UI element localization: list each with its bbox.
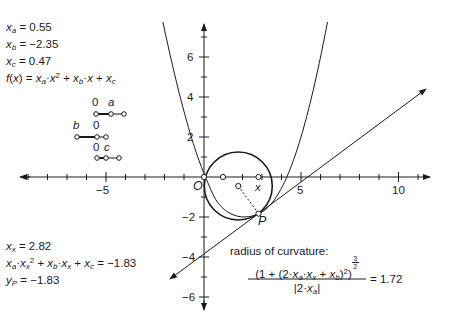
slider-b-name-label: b <box>73 119 79 132</box>
x-point[interactable] <box>256 174 261 179</box>
param-xb: xb = −2.35 <box>6 38 58 51</box>
slider-c[interactable] <box>95 156 122 161</box>
y-tick-label-2: 2 <box>187 131 193 144</box>
y-tick-label-neg6: −6 <box>182 291 195 304</box>
result-yp: yP = −1.83 <box>6 274 59 287</box>
origin-label: O <box>193 180 203 193</box>
slider-c-zero-label: 0 <box>93 141 99 154</box>
curvature-label: radius of curvature: <box>230 245 328 258</box>
y-tick-label-neg2: −2 <box>182 211 195 224</box>
param-xa: xa = 0.55 <box>6 21 52 34</box>
x-tick-label-neg5: −5 <box>96 184 109 197</box>
curvature-center-point[interactable] <box>236 183 241 188</box>
function-definition: f(x) = xa·x2 + xb·x + xc <box>6 72 116 85</box>
x-point-label: x <box>255 181 261 194</box>
slider-a-name-label: a <box>108 96 114 109</box>
slider-a[interactable] <box>94 112 127 117</box>
p-point-label: P <box>258 215 266 228</box>
slider-c-name-label: c <box>104 141 110 154</box>
unit-point[interactable] <box>220 174 225 179</box>
curvature-numerator: (1 + (2·xa·xx + xb)2)32 <box>248 264 366 280</box>
x-tick-label-10: 10 <box>392 184 405 197</box>
y-tick-label-6: 6 <box>187 51 193 64</box>
slider-b-zero-label: 0 <box>93 119 99 132</box>
result-xx: xx = 2.82 <box>6 240 51 253</box>
param-xc: xc = 0.47 <box>6 55 51 68</box>
result-fxx: xa·xx2 + xb·xx + xc = −1.83 <box>6 257 136 270</box>
curvature-value: = 1.72 <box>370 273 402 286</box>
curvature-denominator: |2·xa| <box>248 282 366 294</box>
slider-a-zero-label: 0 <box>92 96 98 109</box>
x-tick-label-5: 5 <box>297 184 303 197</box>
slider-b[interactable] <box>75 135 109 140</box>
y-tick-label-neg4: −4 <box>182 251 195 264</box>
y-tick-label-4: 4 <box>187 91 193 104</box>
